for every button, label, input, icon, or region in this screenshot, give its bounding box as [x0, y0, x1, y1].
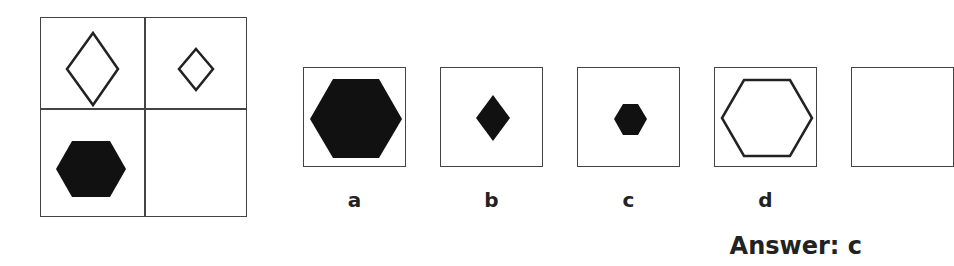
option-d-label: d [714, 188, 817, 212]
option-e-box-cropped[interactable] [851, 67, 954, 167]
small-solid-hexagon-icon [614, 104, 647, 135]
puzzle-matrix [40, 17, 247, 217]
matrix-shapes [41, 18, 248, 218]
small-outline-diamond-icon [179, 49, 213, 90]
very-large-solid-hexagon-icon [310, 79, 402, 158]
large-solid-hexagon-icon [56, 141, 126, 197]
option-a-label: a [303, 188, 406, 212]
option-a-box[interactable] [303, 67, 406, 167]
option-c-box[interactable] [577, 67, 680, 167]
option-c-label: c [577, 188, 680, 212]
small-solid-diamond-icon [476, 95, 510, 141]
answer-text: Answer: c [730, 232, 862, 260]
option-b-box[interactable] [440, 67, 543, 167]
option-d-box[interactable] [714, 67, 817, 167]
large-outline-diamond-icon [67, 33, 118, 105]
option-b-label: b [440, 188, 543, 212]
large-outline-hexagon-icon [722, 80, 812, 156]
